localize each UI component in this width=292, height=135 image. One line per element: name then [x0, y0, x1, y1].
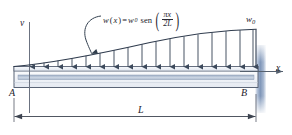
figure-canvas: v x A B L w0 w(x) = w0 sen ( πx 2L ) [0, 0, 292, 135]
equation-amplitude-subscript: 0 [135, 17, 138, 23]
left-end-label: A [9, 88, 15, 98]
equation-function-name: sen [141, 15, 152, 25]
load-curve [14, 29, 256, 66]
peak-load-subscript: 0 [252, 18, 255, 25]
beam [14, 67, 258, 88]
equation-fn-symbol: w [103, 15, 109, 25]
equation-fraction: πx 2L [162, 11, 172, 29]
right-end-label: B [241, 88, 247, 98]
equation-fn-arg: x [114, 15, 118, 25]
equation-equals: = [122, 15, 127, 25]
equation-leader-line [85, 16, 101, 54]
equation-close-paren: ) [118, 15, 121, 25]
span-dimension-label: L [138, 105, 144, 115]
equation-amplitude-symbol: w [128, 15, 134, 25]
span-dimension-line [14, 94, 256, 122]
peak-load-label: w0 [246, 15, 255, 25]
equation-open-paren: ( [110, 15, 113, 25]
load-function-equation: w(x) = w0 sen ( πx 2L ) [103, 11, 180, 29]
equation-fraction-numerator: πx [163, 11, 173, 19]
vertical-axis-label: v [20, 19, 24, 29]
load-arrow-group [30, 29, 253, 66]
equation-fraction-denominator: 2L [162, 19, 172, 28]
horizontal-axis-label: x [276, 64, 280, 74]
